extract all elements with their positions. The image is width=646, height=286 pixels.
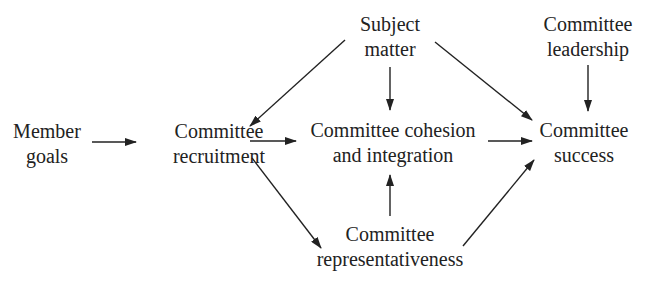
node-recruitment-line-2: recruitment bbox=[173, 144, 265, 169]
node-subject-matter: Subject matter bbox=[360, 12, 420, 62]
node-member-goals-line-1: Member bbox=[13, 119, 81, 144]
node-leadership-line-2: leadership bbox=[544, 37, 633, 62]
node-committee-recruitment: Committee recruitment bbox=[173, 119, 265, 169]
edge-recruitment-to-representativeness bbox=[252, 158, 321, 248]
node-committee-cohesion: Committee cohesion and integration bbox=[311, 118, 476, 168]
node-committee-success: Committee success bbox=[540, 118, 629, 168]
node-subject-matter-line-2: matter bbox=[360, 37, 420, 62]
node-recruitment-line-1: Committee bbox=[173, 119, 265, 144]
node-success-line-1: Committee bbox=[540, 118, 629, 143]
node-committee-leadership: Committee leadership bbox=[544, 12, 633, 62]
node-member-goals: Member goals bbox=[13, 119, 81, 169]
node-member-goals-line-2: goals bbox=[13, 144, 81, 169]
node-leadership-line-1: Committee bbox=[544, 12, 633, 37]
node-success-line-2: success bbox=[540, 143, 629, 168]
edge-representativeness-to-success bbox=[463, 160, 534, 246]
node-representativeness-line-1: Committee bbox=[317, 222, 464, 247]
node-cohesion-line-2: and integration bbox=[311, 143, 476, 168]
edge-subject-matter-to-success bbox=[435, 42, 532, 120]
node-committee-representativeness: Committee representativeness bbox=[317, 222, 464, 272]
node-representativeness-line-2: representativeness bbox=[317, 247, 464, 272]
edge-subject-matter-to-recruitment bbox=[250, 40, 345, 126]
node-cohesion-line-1: Committee cohesion bbox=[311, 118, 476, 143]
node-subject-matter-line-1: Subject bbox=[360, 12, 420, 37]
committee-causal-diagram: Member goals Committee recruitment Subje… bbox=[0, 0, 646, 286]
